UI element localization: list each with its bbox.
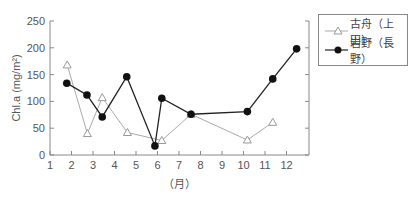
data-point — [98, 94, 106, 101]
legend-label: 岩野（長野） — [350, 34, 407, 66]
data-point — [83, 91, 91, 99]
data-point — [269, 75, 277, 83]
y-tick-label: 100 — [27, 95, 45, 107]
y-tick-label: 200 — [27, 42, 45, 54]
data-point — [158, 94, 166, 102]
series-layer — [63, 45, 300, 150]
x-tick-label: 7 — [176, 159, 182, 171]
data-point — [123, 128, 131, 135]
y-tick-label: 0 — [39, 149, 45, 161]
data-point — [187, 110, 195, 118]
y-tick-label: 150 — [27, 69, 45, 81]
legend-item-iwano: 岩野（長野） — [325, 42, 407, 58]
axes: 050100150200250123456789101112 — [27, 15, 309, 171]
x-tick-label: 5 — [133, 159, 139, 171]
x-axis-title: （月） — [163, 178, 196, 190]
data-point — [151, 142, 159, 150]
data-point — [293, 45, 301, 53]
y-tick-label: 50 — [33, 122, 45, 134]
x-tick-label: 3 — [90, 159, 96, 171]
y-tick-label: 250 — [27, 15, 45, 27]
data-point — [123, 73, 131, 81]
x-tick-label: 6 — [154, 159, 160, 171]
x-tick-label: 10 — [237, 159, 249, 171]
x-tick-label: 12 — [280, 159, 292, 171]
data-point — [83, 130, 91, 137]
x-tick-label: 9 — [219, 159, 225, 171]
x-tick-label: 11 — [259, 159, 270, 171]
x-tick-label: 1 — [47, 159, 53, 171]
series-1 — [63, 45, 300, 150]
data-point — [269, 118, 277, 125]
filled-circle-marker-icon — [325, 45, 348, 55]
data-point — [98, 113, 106, 121]
x-tick-label: 4 — [111, 159, 117, 171]
data-point — [63, 79, 71, 87]
open-triangle-marker-icon — [325, 26, 348, 36]
y-axis-title: Chl.a (mg/m²) — [10, 54, 22, 121]
data-point — [63, 61, 71, 68]
x-tick-label: 8 — [197, 159, 203, 171]
data-point — [243, 136, 251, 143]
x-tick-label: 2 — [68, 159, 74, 171]
data-point — [244, 108, 252, 116]
legend: 古舟（上田） 岩野（長野） — [318, 14, 408, 66]
